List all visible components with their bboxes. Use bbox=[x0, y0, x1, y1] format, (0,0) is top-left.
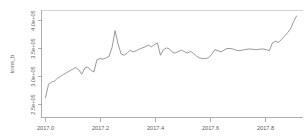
x-tick-label: 2017.8 bbox=[257, 125, 274, 131]
x-tick-label: 2017.4 bbox=[147, 125, 164, 131]
data-series-line bbox=[46, 16, 297, 98]
y-axis-title: tcms_b bbox=[9, 55, 15, 74]
timeseries-line-chart: 4.0e+05 3.5e+05 3.0e+05 2.5e+05 tcms_b 2… bbox=[0, 0, 305, 138]
y-tick-label: 2.5e+05 bbox=[30, 94, 36, 114]
x-tick-label: 2017.2 bbox=[92, 125, 109, 131]
x-tick-label: 2017.0 bbox=[37, 125, 54, 131]
x-axis-tick-labels: 2017.0 2017.2 2017.4 2017.6 2017.8 bbox=[37, 125, 274, 131]
y-axis-tick-labels: 4.0e+05 3.5e+05 3.0e+05 2.5e+05 bbox=[30, 10, 36, 114]
y-tick-label: 4.0e+05 bbox=[30, 10, 36, 30]
y-axis-ticks bbox=[38, 21, 42, 105]
y-tick-label: 3.0e+05 bbox=[30, 66, 36, 86]
x-axis-ticks bbox=[46, 118, 266, 122]
x-tick-label: 2017.6 bbox=[202, 125, 219, 131]
chart-screenshot: 4.0e+05 3.5e+05 3.0e+05 2.5e+05 tcms_b 2… bbox=[0, 0, 305, 138]
y-tick-label: 3.5e+05 bbox=[30, 38, 36, 58]
